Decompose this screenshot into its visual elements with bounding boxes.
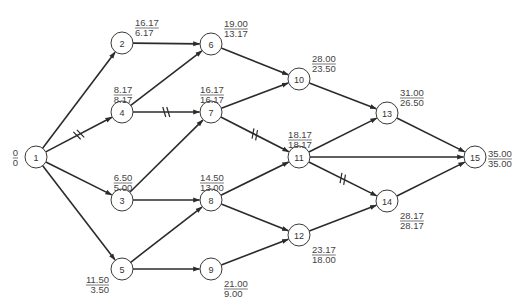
node-2-times: 16.176.17 — [135, 17, 159, 38]
edge-12-14 — [309, 205, 376, 231]
labels-layer: 0016.176.176.505.008.178.1711.503.5019.0… — [13, 17, 512, 299]
earliest-time: 18.00 — [312, 254, 336, 265]
arrow-line — [131, 207, 202, 262]
node-id: 13 — [382, 109, 392, 119]
arrow-line — [46, 117, 112, 152]
earliest-time: 35.00 — [488, 158, 512, 169]
node-11-times: 18.1718.17 — [288, 129, 312, 150]
earliest-time: 13.00 — [200, 182, 224, 193]
edge-11-13 — [309, 118, 377, 152]
nodes-layer: 123456789101112131415 — [25, 32, 486, 280]
node-8-times: 14.5013.00 — [200, 172, 224, 193]
node-id: 1 — [33, 153, 38, 163]
earliest-time: 6.17 — [135, 27, 154, 38]
arrow-line — [221, 83, 288, 108]
node-id: 12 — [294, 231, 304, 241]
arrow-line — [43, 166, 115, 260]
arrow-line — [221, 48, 288, 75]
node-5-times: 11.503.50 — [86, 274, 109, 295]
earliest-time: 16.17 — [200, 94, 224, 105]
node-12-times: 23.1718.00 — [312, 244, 336, 265]
node-id: 2 — [119, 39, 124, 49]
node-id: 9 — [208, 265, 213, 275]
edges-layer — [43, 43, 465, 269]
earliest-time: 5.00 — [114, 182, 133, 193]
node-6: 6 — [200, 33, 222, 55]
node-7-times: 16.1716.17 — [200, 84, 224, 105]
node-id: 8 — [208, 196, 213, 206]
edge-1-5 — [43, 166, 115, 260]
edge-1-3 — [46, 162, 112, 195]
node-id: 6 — [208, 40, 213, 50]
earliest-time: 0 — [13, 157, 18, 168]
arrow-line — [133, 43, 200, 44]
arrow-line — [221, 239, 288, 265]
edge-6-10 — [221, 48, 288, 75]
edge-11-14 — [309, 162, 377, 196]
node-13-times: 31.0026.50 — [400, 87, 424, 108]
edge-13-15 — [397, 118, 465, 152]
node-13: 13 — [376, 102, 398, 124]
edge-2-6 — [133, 43, 200, 44]
node-1: 1 — [25, 146, 47, 168]
earliest-time: 8.17 — [114, 94, 133, 105]
node-15: 15 — [464, 146, 486, 168]
edge-7-10 — [221, 83, 288, 108]
node-5: 5 — [111, 258, 133, 280]
edge-3-7 — [130, 120, 203, 192]
earliest-time: 13.17 — [224, 28, 248, 39]
arrow-line — [221, 117, 289, 152]
node-id: 4 — [119, 108, 124, 118]
node-14: 14 — [376, 190, 398, 212]
edge-1-4 — [46, 117, 112, 152]
node-15-times: 35.0035.00 — [488, 148, 512, 169]
node-id: 14 — [382, 197, 392, 207]
arrow-line — [309, 118, 377, 152]
node-id: 7 — [208, 108, 213, 118]
node-id: 15 — [470, 153, 480, 163]
arrow-line — [397, 162, 465, 196]
node-9: 9 — [200, 258, 222, 280]
node-10: 10 — [288, 68, 310, 90]
edge-4-7 — [133, 107, 200, 117]
node-id: 3 — [119, 196, 124, 206]
earliest-time: 26.50 — [400, 97, 424, 108]
edge-7-11 — [221, 117, 289, 152]
arrow-line — [221, 162, 289, 195]
node-10-times: 28.0023.50 — [312, 53, 336, 74]
arrow-line — [309, 162, 377, 196]
node-1-times: 00 — [13, 147, 18, 168]
earliest-time: 3.50 — [91, 284, 110, 295]
edge-14-15 — [397, 162, 465, 196]
arrow-line — [46, 162, 112, 195]
edge-4-6 — [131, 51, 202, 105]
earliest-time: 23.50 — [312, 63, 336, 74]
node-id: 11 — [294, 153, 303, 163]
arrow-line — [130, 120, 203, 192]
edge-9-12 — [221, 239, 288, 265]
arrow-line — [397, 118, 465, 152]
node-14-times: 28.1728.17 — [400, 210, 424, 231]
arrow-line — [221, 204, 288, 231]
edge-8-12 — [221, 204, 288, 231]
node-6-times: 19.0013.17 — [224, 18, 248, 39]
earliest-time: 28.17 — [400, 220, 424, 231]
node-id: 5 — [119, 265, 124, 275]
edge-10-13 — [309, 83, 376, 109]
node-2: 2 — [111, 32, 133, 54]
network-diagram: 123456789101112131415 0016.176.176.505.0… — [0, 0, 529, 308]
node-12: 12 — [288, 224, 310, 246]
earliest-time: 18.17 — [288, 139, 312, 150]
node-id: 10 — [294, 75, 304, 85]
edge-5-8 — [131, 207, 202, 262]
node-3-times: 6.505.00 — [114, 172, 133, 193]
earliest-time: 9.00 — [224, 288, 243, 299]
arrow-line — [131, 51, 202, 105]
node-4-times: 8.178.17 — [114, 84, 133, 105]
node-9-times: 21.009.00 — [224, 278, 248, 299]
edge-8-11 — [221, 162, 289, 195]
arrow-line — [309, 205, 376, 231]
arrow-line — [309, 83, 376, 109]
